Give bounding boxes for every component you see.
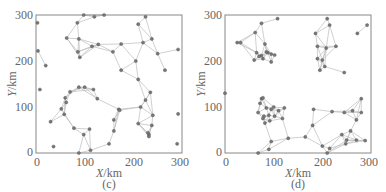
x-tick-0: 0 [223, 155, 229, 169]
network-node [177, 112, 180, 115]
network-node [254, 31, 257, 34]
network-edge [67, 23, 78, 38]
y-tick-100: 100 [204, 100, 222, 114]
network-edge [98, 44, 113, 51]
x-tick-200: 200 [125, 155, 143, 169]
network-node [139, 105, 142, 108]
network-edge [305, 125, 312, 136]
network-edge [262, 19, 278, 24]
network-node [355, 139, 358, 142]
network-node [257, 55, 260, 58]
network-node [93, 15, 96, 18]
network-edge [79, 39, 98, 45]
network-edge [313, 109, 314, 125]
network-edge [121, 43, 143, 44]
network-node [120, 69, 123, 72]
network-edge [314, 109, 332, 111]
y-tick-200: 200 [204, 54, 222, 68]
network-edge [265, 123, 271, 141]
network-node [334, 45, 337, 48]
network-node [349, 129, 352, 132]
network-edge [109, 131, 114, 144]
x-tick-100: 100 [76, 155, 94, 169]
network-node [330, 110, 333, 113]
y-tick-0: 0 [27, 145, 33, 159]
network-edge [61, 109, 74, 128]
panel-caption-d: (d) [291, 177, 305, 191]
chart-d-edges [237, 19, 367, 153]
network-edge [313, 112, 332, 126]
network-edge [91, 144, 109, 150]
network-node [253, 58, 256, 61]
network-node [120, 42, 123, 45]
network-node [343, 111, 346, 114]
network-node [276, 17, 279, 20]
network-node [312, 108, 315, 111]
network-node [77, 37, 80, 40]
network-node [137, 122, 140, 125]
network-edge [326, 25, 329, 48]
network-node [44, 64, 47, 67]
network-node [239, 41, 242, 44]
network-edge [305, 137, 322, 146]
network-node [147, 135, 150, 138]
network-node [260, 22, 263, 25]
network-node [65, 36, 68, 39]
y-tick-100: 100 [15, 100, 33, 114]
network-node [137, 23, 140, 26]
network-edge [84, 135, 91, 151]
network-edge [38, 51, 46, 66]
network-edge [121, 61, 136, 70]
network-node [97, 43, 100, 46]
network-node [82, 13, 85, 16]
network-node [316, 57, 319, 60]
network-node [38, 88, 41, 91]
network-node [76, 50, 79, 53]
chart-c-nodes [36, 13, 180, 154]
network-node [78, 56, 81, 59]
network-edge [313, 125, 323, 146]
network-node [255, 51, 258, 54]
network-node [314, 32, 317, 35]
network-node [111, 50, 114, 53]
network-node [272, 105, 275, 108]
network-node [103, 13, 106, 16]
network-node [287, 137, 290, 140]
chart-c-edges [38, 15, 178, 153]
network-node [328, 147, 331, 150]
x-tick-300: 300 [360, 155, 378, 169]
network-node [72, 127, 75, 130]
network-node [151, 114, 154, 117]
network-node [176, 142, 179, 145]
network-node [270, 140, 273, 143]
y-axis-label-d: Y/km [194, 71, 208, 97]
network-node [316, 45, 319, 48]
network-edge [138, 79, 150, 92]
network-edge [158, 54, 165, 71]
network-node [256, 151, 259, 154]
network-node [77, 86, 80, 89]
panel-caption-c: (c) [102, 177, 115, 191]
network-node [65, 101, 68, 104]
network-node [304, 135, 307, 138]
network-edge [79, 39, 92, 46]
network-node [256, 111, 259, 114]
network-node [321, 58, 324, 61]
y-axis-label-c: Y/km [5, 71, 19, 97]
network-node [263, 42, 266, 45]
network-edge [357, 25, 367, 33]
network-node [270, 60, 273, 63]
network-edge [351, 120, 357, 131]
network-edge [51, 114, 65, 121]
network-edge [288, 137, 305, 138]
network-node [340, 133, 343, 136]
network-node [150, 37, 153, 40]
network-node [134, 59, 137, 62]
network-node [36, 21, 39, 24]
network-edge [78, 44, 98, 51]
network-node [360, 111, 363, 114]
x-tick-0: 0 [34, 155, 40, 169]
network-node [283, 106, 286, 109]
network-node [351, 109, 354, 112]
network-node [360, 97, 363, 100]
